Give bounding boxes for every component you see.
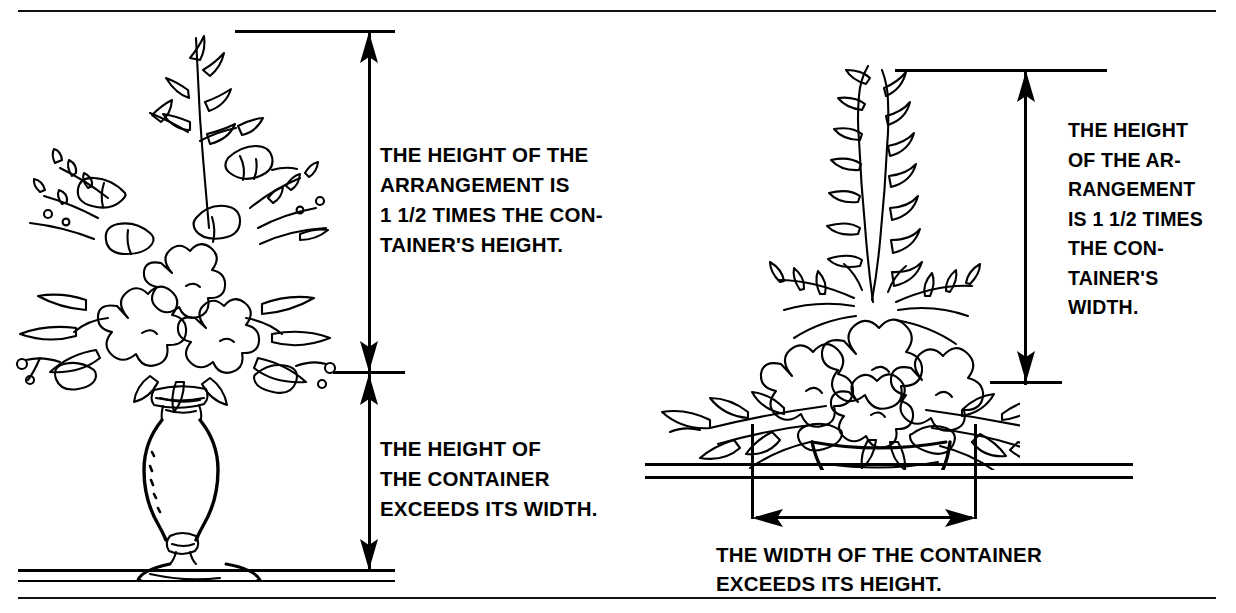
left-height-dimension-line: [368, 32, 371, 572]
right-top-extension-line: [895, 69, 1107, 72]
right-baseline-rule-secondary: [645, 476, 1133, 479]
right-upper-caption: THE HEIGHT OF THE AR- RANGEMENT IS 1 1/2…: [1068, 116, 1203, 323]
right-arrangement-illustration: [640, 58, 1020, 470]
right-baseline-rule: [645, 463, 1133, 466]
left-arrowhead-up-mid: [355, 374, 383, 406]
left-arrangement-illustration: [0, 18, 345, 580]
right-width-dimension-line: [756, 516, 972, 519]
left-arrowhead-down-mid: [355, 340, 383, 372]
left-baseline-rule-secondary: [18, 580, 395, 582]
left-baseline-rule: [18, 569, 395, 572]
top-frame-rule: [18, 10, 1216, 12]
right-arrowhead-up-top: [1012, 71, 1040, 103]
left-arrowhead-down-bottom: [355, 538, 383, 570]
right-lower-caption: THE WIDTH OF THE CONTAINER EXCEEDS ITS H…: [716, 540, 1042, 598]
left-lower-caption: THE HEIGHT OF THE CONTAINER EXCEEDS ITS …: [380, 434, 598, 524]
right-arrowhead-left-width: [752, 504, 784, 532]
figure-page: THE HEIGHT OF THE ARRANGEMENT IS 1 1/2 T…: [0, 0, 1236, 613]
right-arrowhead-down-bottom: [1012, 350, 1040, 382]
left-upper-caption: THE HEIGHT OF THE ARRANGEMENT IS 1 1/2 T…: [380, 140, 603, 260]
right-height-dimension-line: [1024, 71, 1027, 385]
left-arrowhead-up-top: [355, 32, 383, 64]
right-arrowhead-right-width: [944, 504, 976, 532]
